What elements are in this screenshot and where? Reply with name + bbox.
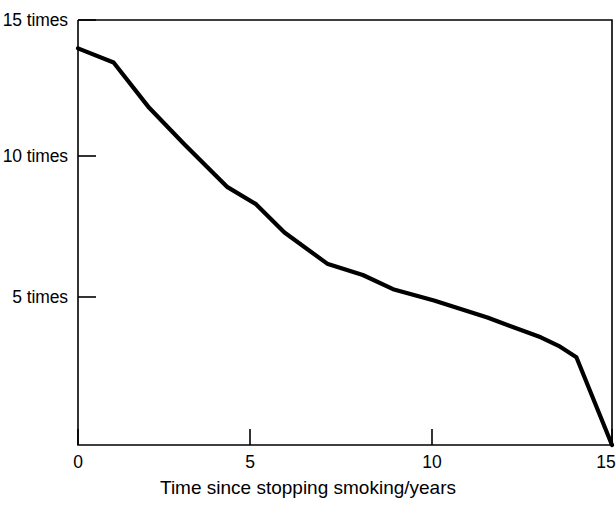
data-series-line: [78, 48, 612, 445]
x-tick-label-10: 10: [422, 452, 441, 473]
x-tick-label-5: 5: [245, 452, 255, 473]
plot-frame: [78, 20, 612, 445]
line-chart: 15 times 10 times 5 times 0 5 10 15 Time…: [0, 0, 616, 510]
x-axis-ticks: [78, 429, 612, 445]
x-axis-title: Time since stopping smoking/years: [0, 477, 616, 499]
x-tick-label-0: 0: [73, 452, 83, 473]
y-tick-label-10: 10 times: [0, 146, 68, 167]
plot-area: [0, 0, 616, 510]
y-axis-ticks: [78, 20, 96, 297]
y-tick-label-5: 5 times: [0, 287, 68, 308]
y-tick-label-15: 15 times: [0, 10, 68, 31]
x-tick-label-15: 15: [596, 452, 615, 473]
